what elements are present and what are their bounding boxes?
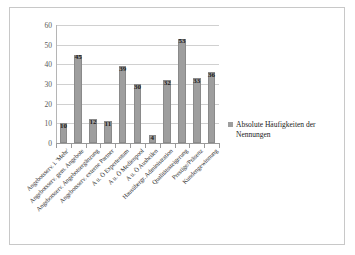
bar-value-label: 11 <box>99 121 117 128</box>
y-axis-tick-label: 60 <box>30 22 52 30</box>
x-axis-category-label: Angebotsserv. i. 'Mehr' <box>25 147 70 192</box>
bar <box>178 39 186 143</box>
x-axis-category-label: A u. Ö Ausheilen <box>124 147 159 182</box>
x-axis-category-label: Angebotsserv. gem. Angebote <box>28 147 85 204</box>
x-axis-tick <box>71 144 72 148</box>
chart-legend: Absolute Häufigkeiten der Nennungen <box>228 120 340 140</box>
x-axis-tick <box>86 144 87 148</box>
x-axis-category-label: Kundengewinnung <box>180 147 218 185</box>
x-axis-tick <box>56 144 57 148</box>
x-axis-category-label: Hausübergr. Administration <box>121 147 174 200</box>
bar-value-label: 45 <box>69 54 87 61</box>
x-axis-tick <box>100 144 101 148</box>
bar <box>134 84 142 143</box>
legend-label: Absolute Häufigkeiten der Nennungen <box>236 120 340 140</box>
bar <box>119 66 127 143</box>
bar-value-label: 36 <box>203 72 221 79</box>
gridline <box>56 45 219 46</box>
bar <box>193 78 201 143</box>
bar-value-label: 39 <box>114 66 132 73</box>
x-axis-category-label: Prestige/Präsenz <box>170 147 204 181</box>
y-axis-tick-label: 20 <box>30 100 52 108</box>
x-axis-tick <box>175 144 176 148</box>
x-axis-tick <box>115 144 116 148</box>
bar <box>74 55 82 144</box>
bar-value-label: 32 <box>158 80 176 87</box>
chart-frame: 6050403020100 104512113930432533336 Ange… <box>9 7 345 245</box>
bar <box>163 80 171 143</box>
x-axis-tick <box>204 144 205 148</box>
y-axis-tick-label: 50 <box>30 41 52 49</box>
bar-value-label: 30 <box>129 84 147 91</box>
x-axis-category-label: Qualitätssteigerung <box>150 147 189 186</box>
y-axis-tick-label: 40 <box>30 61 52 69</box>
x-axis-category-label: A u. Ö Medienpool <box>106 147 145 186</box>
x-axis-tick <box>145 144 146 148</box>
y-axis-line <box>56 25 57 144</box>
y-axis-tick-label: 10 <box>30 120 52 128</box>
bar-value-label: 53 <box>173 38 191 45</box>
y-axis-tick-labels: 6050403020100 <box>28 25 52 143</box>
x-axis-category-label: Angebotsserv. externe Partner <box>58 147 115 204</box>
x-axis-tick <box>189 144 190 148</box>
bar-value-label: 10 <box>54 123 72 130</box>
bar <box>208 72 216 143</box>
x-axis-category-label: A u. Ö Expertentum <box>90 147 130 187</box>
gridline <box>56 25 219 26</box>
x-axis-category-label: Angebotsserv. Angebotsergänzung <box>35 147 100 212</box>
x-axis-tick <box>219 144 220 148</box>
y-axis-tick-label: 30 <box>30 81 52 89</box>
plot-area: 104512113930432533336 <box>56 25 219 143</box>
x-axis-ticks <box>56 144 220 149</box>
legend-swatch-icon <box>228 122 233 127</box>
x-axis-tick <box>130 144 131 148</box>
bar-value-label: 4 <box>143 135 161 142</box>
x-axis-tick <box>160 144 161 148</box>
y-axis-tick-label: 0 <box>30 140 52 148</box>
